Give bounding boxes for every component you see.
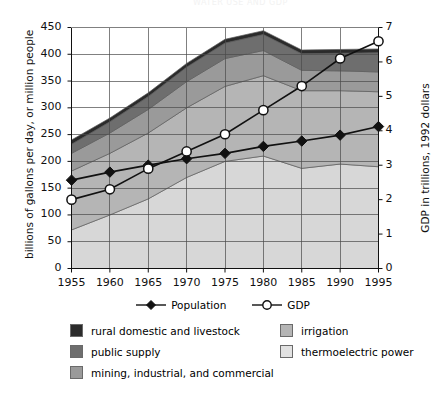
swatch-public-supply	[70, 345, 83, 358]
marker-gdp	[374, 37, 383, 46]
open-circle-icon	[252, 299, 282, 311]
legend-label-mining-industrial-and-commercial: mining, industrial, and commercial	[91, 367, 274, 379]
legend-label-gdp: GDP	[287, 300, 310, 311]
legend-column-right: irrigation thermoelectric power	[280, 320, 437, 362]
marker-gdp	[144, 164, 153, 173]
legend-areas: rural domestic and livestock public supp…	[62, 320, 402, 382]
x-axis-tick-1970: 1970	[167, 276, 207, 289]
x-axis-tick-1960: 1960	[90, 276, 130, 289]
legend-item-rural-domestic-and-livestock: rural domestic and livestock	[70, 320, 285, 341]
y-axis-left-tick-300: 300	[32, 100, 62, 113]
legend-label-public-supply: public supply	[91, 346, 161, 358]
y-axis-left-tick-200: 200	[32, 154, 62, 167]
y-axis-right-tick-4: 4	[386, 123, 408, 136]
legend-item-gdp: GDP	[252, 299, 310, 311]
y-axis-left-tick-50: 50	[32, 234, 62, 247]
marker-gdp	[259, 106, 268, 115]
y-axis-right-tick-3: 3	[386, 158, 408, 171]
legend-item-irrigation: irrigation	[280, 320, 437, 341]
x-axis-tick-1980: 1980	[243, 276, 283, 289]
y-axis-left-tick-400: 400	[32, 47, 62, 60]
y-axis-right-tick-6: 6	[386, 54, 408, 67]
marker-gdp	[67, 195, 76, 204]
legend-label-rural-domestic-and-livestock: rural domestic and livestock	[91, 325, 240, 337]
marker-gdp	[182, 147, 191, 156]
y-axis-left-tick-350: 350	[32, 74, 62, 87]
y-axis-right-tick-0: 0	[386, 261, 408, 274]
y-axis-left-tick-150: 150	[32, 181, 62, 194]
marker-gdp	[220, 130, 229, 139]
legend-lines: Population GDP	[108, 296, 338, 314]
legend-item-thermoelectric-power: thermoelectric power	[280, 341, 437, 362]
legend-column-left: rural domestic and livestock public supp…	[70, 320, 285, 383]
marker-gdp	[297, 81, 306, 90]
y-axis-right-tick-1: 1	[386, 227, 408, 240]
x-axis-tick-1985: 1985	[282, 276, 322, 289]
legend-item-public-supply: public supply	[70, 341, 285, 362]
swatch-irrigation	[280, 324, 293, 337]
swatch-thermoelectric-power	[280, 345, 293, 358]
y-axis-right-tick-5: 5	[386, 89, 408, 102]
x-axis-tick-1995: 1995	[359, 276, 399, 289]
x-axis-tick-1955: 1955	[52, 276, 92, 289]
plot-area	[0, 0, 437, 300]
marker-gdp	[336, 54, 345, 63]
x-axis-tick-1975: 1975	[205, 276, 245, 289]
legend-label-thermoelectric-power: thermoelectric power	[301, 346, 414, 358]
y-axis-right-tick-2: 2	[386, 192, 408, 205]
marker-gdp	[105, 185, 114, 194]
y-axis-left-tick-100: 100	[32, 207, 62, 220]
y-axis-left-tick-250: 250	[32, 127, 62, 140]
legend-item-mining-industrial-and-commercial: mining, industrial, and commercial	[70, 362, 285, 383]
legend-item-population: Population	[136, 299, 226, 311]
chart-figure: WATER USE AND GDP billions of gallons pe…	[0, 0, 437, 397]
legend-label-population: Population	[171, 300, 226, 311]
filled-diamond-icon	[136, 299, 166, 311]
y-axis-left-tick-450: 450	[32, 20, 62, 33]
y-axis-right-tick-7: 7	[386, 20, 408, 33]
swatch-mining-industrial-and-commercial	[70, 366, 83, 379]
y-axis-left-tick-0: 0	[32, 261, 62, 274]
x-axis-tick-1990: 1990	[320, 276, 360, 289]
legend-label-irrigation: irrigation	[301, 325, 349, 337]
swatch-rural-domestic-and-livestock	[70, 324, 83, 337]
x-axis-tick-1965: 1965	[128, 276, 168, 289]
